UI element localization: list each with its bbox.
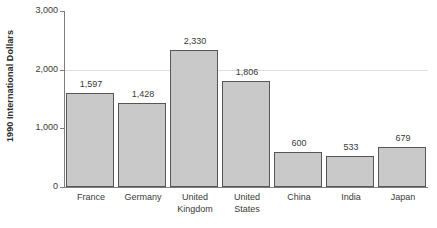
- category-label-line: China: [273, 192, 325, 204]
- bar-slot: 1,428: [117, 11, 169, 187]
- x-axis-line: [64, 187, 428, 188]
- y-axis-tick-mark: [60, 187, 65, 188]
- category-label-line: Kingdom: [169, 204, 221, 216]
- bar[interactable]: [118, 103, 166, 187]
- bar-chart: 1990 International Dollars 01,0002,0003,…: [0, 0, 437, 228]
- bar-slot: 600: [273, 11, 325, 187]
- y-axis-tick-mark: [60, 128, 65, 129]
- bar-slot: 1,806: [221, 11, 273, 187]
- y-axis-tick-label: 3,000: [22, 6, 58, 15]
- bar[interactable]: [326, 156, 374, 187]
- y-axis-tick-labels: 01,0002,0003,000: [18, 0, 58, 228]
- y-axis-tick-mark: [60, 11, 65, 12]
- bar-value-label: 1,597: [61, 80, 121, 89]
- bar[interactable]: [274, 152, 322, 187]
- x-axis-category-label: UnitedStates: [221, 192, 273, 215]
- bar-value-label: 679: [373, 134, 433, 143]
- bar-value-label: 1,428: [113, 90, 173, 99]
- bar-slot: 2,330: [169, 11, 221, 187]
- x-axis-category-labels: FranceGermanyUnitedKingdomUnitedStatesCh…: [65, 192, 428, 226]
- y-axis-title: 1990 International Dollars: [0, 0, 20, 200]
- bar-value-label: 2,330: [165, 37, 225, 46]
- y-axis-tick-mark: [60, 70, 65, 71]
- bar-value-label: 600: [269, 139, 329, 148]
- bar-value-label: 533: [321, 143, 381, 152]
- category-label-line: Japan: [377, 192, 429, 204]
- bar[interactable]: [222, 81, 270, 187]
- plot-area: 1,5971,4282,3301,806600533679: [65, 11, 428, 187]
- category-label-line: States: [221, 204, 273, 216]
- category-label-line: France: [65, 192, 117, 204]
- category-label-line: India: [325, 192, 377, 204]
- x-axis-category-label: Japan: [377, 192, 429, 204]
- x-axis-category-label: Germany: [117, 192, 169, 204]
- bar-slot: 1,597: [65, 11, 117, 187]
- bar-value-label: 1,806: [217, 68, 277, 77]
- bar[interactable]: [66, 93, 114, 187]
- x-axis-category-label: France: [65, 192, 117, 204]
- bar[interactable]: [378, 147, 426, 187]
- x-axis-category-label: China: [273, 192, 325, 204]
- category-label-line: United: [221, 192, 273, 204]
- y-axis-tick-label: 1,000: [22, 123, 58, 132]
- bar-slot: 533: [325, 11, 377, 187]
- x-axis-category-label: India: [325, 192, 377, 204]
- category-label-line: United: [169, 192, 221, 204]
- category-label-line: Germany: [117, 192, 169, 204]
- x-axis-category-label: UnitedKingdom: [169, 192, 221, 215]
- bar[interactable]: [170, 50, 218, 187]
- y-axis-tick-label: 2,000: [22, 65, 58, 74]
- bar-slot: 679: [377, 11, 429, 187]
- y-axis-tick-label: 0: [22, 182, 58, 191]
